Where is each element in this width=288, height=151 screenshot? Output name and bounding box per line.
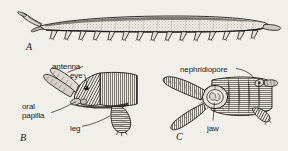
annotation-antenna: antenna	[52, 62, 80, 71]
panel-b-illustration	[44, 68, 137, 136]
annotation-leg: leg	[70, 124, 80, 133]
annotation-oral-papilla: papilla	[22, 111, 44, 120]
eye-marker	[84, 86, 88, 90]
annotation-jaw: jaw	[207, 124, 219, 133]
panel-label-a: A	[26, 41, 32, 52]
panel-label-b: B	[20, 132, 26, 143]
annotation-eye: eye	[70, 71, 83, 80]
panel-a-body	[18, 12, 281, 42]
panel-label-c: C	[176, 131, 183, 142]
panel-c-illustration	[163, 77, 277, 130]
figure-plate: antenna eye oral papilla leg nephridiopo…	[0, 0, 288, 151]
annotation-oral: oral	[22, 102, 35, 111]
panel-a-illustration	[0, 0, 288, 151]
annotation-nephridiopore: nephridiopore	[180, 65, 228, 74]
